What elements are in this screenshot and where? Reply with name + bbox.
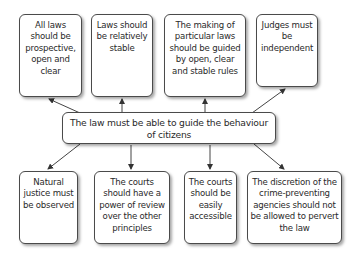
top-node-4: Judges must be independent: [256, 14, 318, 87]
arrow-to-bottom-4: [254, 144, 284, 169]
top-node-1: All laws should be prospective, open and…: [19, 14, 82, 97]
arrow-to-top-4: [252, 89, 285, 113]
bottom-node-3: The courts should be easily accessible: [184, 171, 237, 244]
bottom-node-2: The courts should have a power of review…: [94, 171, 170, 244]
arrow-to-bottom-1: [48, 144, 80, 169]
top-node-2: Laws should be relatively stable: [91, 14, 153, 97]
bottom-node-1: Natural justice must be observed: [19, 171, 78, 244]
arrow-to-top-1: [49, 99, 80, 113]
bottom-node-4: The discretion of the crime-preventing a…: [247, 171, 342, 244]
top-node-3: The making of particular laws should be …: [164, 14, 246, 97]
central-node: The law must be able to guide the behavi…: [62, 112, 276, 144]
